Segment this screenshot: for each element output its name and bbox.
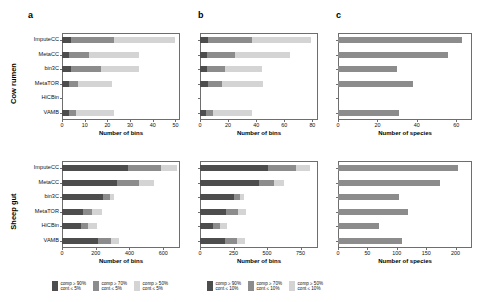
- bar-sheep-c-metacc: [338, 180, 440, 186]
- x-tick-label: 0: [337, 123, 340, 128]
- legend-label: comp ≥ 90%cont ≤ 5%: [61, 281, 87, 292]
- bar-segment-1: [207, 66, 225, 72]
- x-tick-label: 40: [253, 123, 259, 128]
- x-tick-label: 200: [451, 251, 460, 256]
- x-axis-sheep-a: 0200400600Number of bins: [62, 248, 180, 266]
- chart-cow-b: 020406080Number of bins: [200, 33, 318, 120]
- x-tick-label: 50: [364, 251, 370, 256]
- x-axis-title-cow-b: Number of bins: [200, 130, 318, 136]
- bar-segment-2: [220, 223, 227, 229]
- legend-label-line2: cont ≤ 10%: [216, 286, 242, 291]
- bar-segment-1: [207, 52, 235, 58]
- bar-segment-2: [139, 180, 154, 186]
- bar-segment-2: [238, 209, 247, 215]
- bar-segment-2: [114, 37, 175, 43]
- bar-segment-2: [222, 81, 263, 87]
- bar-sheep-a-vamb: [62, 238, 119, 244]
- bar-segment-2: [101, 66, 140, 72]
- bar-segment-0: [338, 110, 399, 116]
- legend-swatch: [134, 281, 140, 291]
- x-axis-title-cow-c: Number of species: [338, 130, 472, 136]
- bar-segment-0: [200, 194, 234, 200]
- bar-sheep-a-metator: [62, 209, 102, 215]
- legend-swatch: [93, 281, 99, 291]
- legend-item-cont-10-1: comp ≥ 70%cont ≤ 10%: [248, 281, 282, 292]
- x-axis-cow-b: 020406080Number of bins: [200, 120, 318, 138]
- x-tick-label: 0: [199, 123, 202, 128]
- x-tick-label: 600: [159, 251, 168, 256]
- bar-segment-2: [237, 238, 245, 244]
- legend-item-cont-10-0: comp ≥ 90%cont ≤ 10%: [207, 281, 241, 292]
- bar-cow-c-bin3c: [338, 66, 397, 72]
- bar-segment-1: [268, 165, 296, 171]
- bar-cow-b-imputecc: [200, 37, 311, 43]
- bar-segment-2: [111, 238, 119, 244]
- bar-segment-0: [62, 209, 83, 215]
- legend-swatch: [52, 281, 58, 291]
- bar-segment-0: [62, 37, 71, 43]
- bar-segment-0: [200, 180, 259, 186]
- x-tick-label: 50: [172, 123, 178, 128]
- bar-segment-2: [78, 81, 112, 87]
- bar-segment-0: [338, 180, 440, 186]
- bar-segment-0: [62, 66, 71, 72]
- y-tick-label-vamb: VAMB: [44, 110, 59, 116]
- legend-item-cont-5-2: comp ≥ 50%cont ≤ 5%: [134, 281, 168, 292]
- y-tick-label-metator: MetaTOR: [35, 209, 59, 215]
- bar-sheep-b-vamb: [200, 238, 245, 244]
- bar-cow-c-metacc: [338, 52, 448, 58]
- plot-area-sheep-a: [62, 161, 180, 248]
- y-tick-label-bin3c: bin3C: [44, 194, 59, 200]
- bar-segment-1: [208, 81, 222, 87]
- bar-segment-0: [338, 209, 408, 215]
- bar-segment-0: [200, 165, 268, 171]
- bar-segment-0: [200, 37, 208, 43]
- bar-segment-1: [81, 223, 89, 229]
- bar-segment-2: [213, 110, 252, 116]
- panel-letter-b: b: [198, 10, 204, 20]
- bar-cow-a-imputecc: [62, 37, 175, 43]
- y-tick-cow-b-4: [198, 98, 200, 99]
- x-tick-label: 500: [263, 251, 272, 256]
- legend-label: comp ≥ 50%cont ≤ 5%: [143, 281, 169, 292]
- legend-label: comp ≥ 90%cont ≤ 10%: [216, 281, 242, 292]
- panel-letter-a: a: [28, 10, 33, 20]
- y-tick-label-imputecc: ImputeCC: [34, 37, 59, 43]
- bar-sheep-c-bin3c: [338, 194, 399, 200]
- y-axis-labels-cow-a: ImputeCCMetaCCbin3CMetaTORHiCBinVAMB: [16, 33, 62, 120]
- x-tick-label: 40: [150, 123, 156, 128]
- bar-segment-0: [338, 238, 402, 244]
- legend-cont-10: comp ≥ 90%cont ≤ 10%comp ≥ 70%cont ≤ 10%…: [207, 281, 330, 292]
- bar-sheep-b-bin3c: [200, 194, 244, 200]
- chart-sheep-c: 050100150200Number of species: [338, 161, 472, 248]
- bar-segment-1: [259, 180, 274, 186]
- bar-segment-1: [128, 165, 162, 171]
- bar-segment-0: [338, 223, 379, 229]
- x-tick-label: 0: [61, 251, 64, 256]
- bar-cow-a-vamb: [62, 110, 114, 116]
- bar-cow-a-metacc: [62, 52, 139, 58]
- plot-area-sheep-c: [338, 161, 472, 248]
- bar-segment-1: [69, 52, 89, 58]
- x-tick-label: 80: [309, 123, 315, 128]
- bar-segment-1: [103, 194, 110, 200]
- bar-segment-2: [92, 209, 102, 215]
- y-tick-label-hicbin: HiCBin: [42, 95, 59, 101]
- y-tick-label-bin3c: bin3C: [44, 66, 59, 72]
- y-tick-label-hicbin: HiCBin: [42, 223, 59, 229]
- plot-area-sheep-b: [200, 161, 318, 248]
- bar-cow-b-bin3c: [200, 66, 262, 72]
- legend-item-cont-5-1: comp ≥ 70%cont ≤ 5%: [93, 281, 127, 292]
- x-axis-cow-a: 01020304050Number of bins: [62, 120, 180, 138]
- bar-segment-1: [213, 223, 220, 229]
- x-tick-label: 20: [225, 123, 231, 128]
- x-tick-label: 0: [199, 251, 202, 256]
- bar-cow-a-bin3c: [62, 66, 139, 72]
- bar-segment-2: [161, 165, 176, 171]
- bar-sheep-b-metator: [200, 209, 246, 215]
- y-tick-label-metacc: MetaCC: [38, 180, 59, 186]
- chart-sheep-a: ImputeCCMetaCCbin3CMetaTORHiCBinVAMB0200…: [62, 161, 180, 248]
- bar-sheep-a-imputecc: [62, 165, 177, 171]
- bar-segment-1: [117, 180, 139, 186]
- plot-area-cow-a: [62, 33, 180, 120]
